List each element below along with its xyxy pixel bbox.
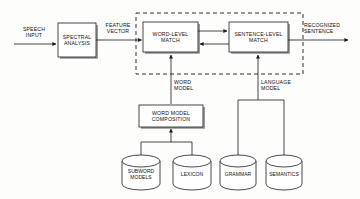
sentence-level-match-label: SENTENCE-LEVEL MATCH	[229, 22, 288, 52]
word-level-match-label: WORD-LEVEL MATCH	[143, 22, 198, 52]
semantics-label: SEMANTICS	[264, 163, 304, 185]
subword-models-label: SUBWORD MODELS	[120, 163, 162, 185]
word-model-composition-label: WORD MODEL COMPOSITION	[139, 105, 203, 127]
feature-vector-label: FEATURE VECTOR	[98, 22, 138, 34]
spectral-analysis-label: SPECTRAL ANALYSIS	[58, 23, 96, 57]
speech-input-label: SPEECH INPUT	[12, 26, 56, 38]
language-model-label: LANGUAGE MODEL	[261, 79, 303, 91]
grammar-label: GRAMMAR	[218, 163, 258, 185]
lexicon-label: LEXICON	[171, 163, 213, 185]
recognized-sentence-label: RECOGNIZED SENTENCE	[304, 22, 356, 34]
word-model-label: WORD MODEL	[174, 79, 208, 91]
